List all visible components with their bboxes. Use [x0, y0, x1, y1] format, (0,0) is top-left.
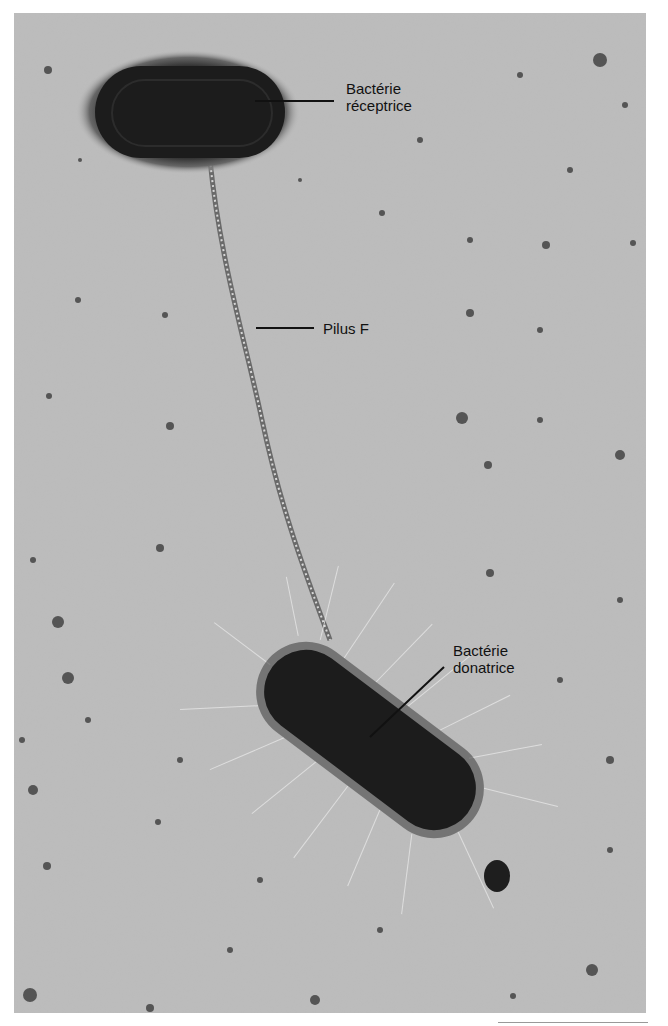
scale-bar: [498, 1022, 648, 1023]
label-donor-bacterium: Bactérie donatrice: [453, 642, 515, 676]
label-pilus-f: Pilus F: [323, 320, 369, 337]
small-particle: [484, 860, 510, 892]
label-receptor-bacterium: Bactérie réceptrice: [346, 80, 412, 114]
receptor-bacterium: [76, 50, 300, 174]
micrograph-illustration: [14, 13, 646, 1013]
micrograph: [14, 13, 646, 1013]
